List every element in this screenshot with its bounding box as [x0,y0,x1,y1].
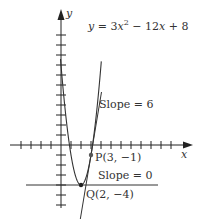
point-q-label: Q(2, −4) [86,188,134,201]
point-p-label: P(3, −1) [95,151,141,164]
slope-0-label: Slope = 0 [98,169,152,182]
x-axis-label: x [181,148,188,161]
y-axis-label: y [65,7,73,20]
point-q [79,183,83,187]
equation-label: y = 3x2 − 12x + 8 [87,18,188,33]
y-axis-arrow-icon [58,9,65,20]
slope-6-label: Slope = 6 [99,98,153,111]
point-p [89,153,93,157]
parabola-tangent-diagram: y x y = 3x2 − 12x + 8 Slope = 6 Slope = … [0,0,201,219]
parabola-curve [61,59,102,185]
